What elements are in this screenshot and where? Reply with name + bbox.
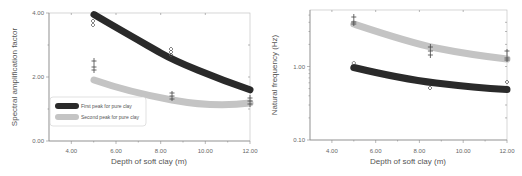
right-chart-panel: 1.00 0.10 4.00 6.00 8.00 10.00 12.00 Dep… xyxy=(261,0,522,176)
y-tick-label: 4.00 xyxy=(32,10,44,16)
x-tick-label: 12.00 xyxy=(242,148,258,154)
x-tick-label: 10.00 xyxy=(198,148,214,154)
plot-frame xyxy=(310,10,507,140)
y-axis-title: Natural frequency (Hz) xyxy=(270,34,279,115)
amplification-chart: 4.00 2.00 0.00 4.00 6.00 8.00 10.00 12.0… xyxy=(0,0,261,176)
x-tick-label: 12.00 xyxy=(499,148,515,154)
legend-label-second-peak: Second peak for pure clay xyxy=(81,114,140,120)
x-tick-label: 4.00 xyxy=(65,148,77,154)
legend-swatch-first-peak xyxy=(55,103,79,109)
left-chart-panel: 4.00 2.00 0.00 4.00 6.00 8.00 10.00 12.0… xyxy=(0,0,261,176)
first-peak-band xyxy=(94,15,250,90)
x-ticks xyxy=(332,10,507,143)
x-tick-label: 10.00 xyxy=(456,148,472,154)
legend-swatch-second-peak xyxy=(55,114,79,120)
legend-box xyxy=(50,97,146,126)
y-tick-label: 2.00 xyxy=(32,74,44,80)
y-tick-label: 0.10 xyxy=(293,137,305,143)
x-tick-label: 4.00 xyxy=(326,148,338,154)
legend-label-first-peak: First peak for pure clay xyxy=(81,103,132,109)
x-axis-title: Depth of soft clay (m) xyxy=(111,157,187,166)
x-axis-title: Depth of soft clay (m) xyxy=(370,157,446,166)
y-axis-title: Spectral amplification factor xyxy=(10,28,19,127)
frequency-chart: 1.00 0.10 4.00 6.00 8.00 10.00 12.00 Dep… xyxy=(261,0,522,176)
x-tick-label: 6.00 xyxy=(370,148,382,154)
y-tick-label: 0.00 xyxy=(32,138,44,144)
x-tick-label: 8.00 xyxy=(155,148,167,154)
x-tick-label: 8.00 xyxy=(414,148,426,154)
y-tick-label: 1.00 xyxy=(293,64,305,70)
legend: First peak for pure clay Second peak for… xyxy=(50,97,146,126)
x-tick-label: 6.00 xyxy=(110,148,122,154)
